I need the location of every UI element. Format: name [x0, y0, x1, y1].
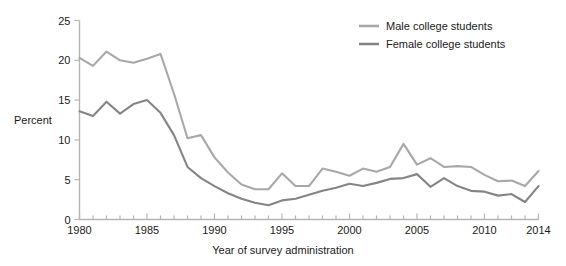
y-axis-title: Percent — [14, 114, 52, 126]
x-tick-label: 1985 — [135, 224, 159, 236]
x-axis-tick-labels: 19801985199019952000200520102014 — [67, 224, 550, 236]
y-tick-label: 10 — [58, 134, 70, 146]
y-axis-tick-labels: 0510152025 — [58, 15, 70, 226]
data-series-lines — [80, 52, 539, 206]
x-tick-label: 2005 — [405, 224, 429, 236]
y-tick-label: 20 — [58, 54, 70, 66]
line-chart-figure: 0510152025 19801985199019952000200520102… — [0, 0, 566, 266]
y-tick-label: 15 — [58, 94, 70, 106]
x-tick-label: 2010 — [472, 224, 496, 236]
legend-label: Male college students — [386, 20, 493, 32]
y-tick-label: 5 — [64, 174, 70, 186]
x-tick-label: 1990 — [202, 224, 226, 236]
chart-legend: Male college studentsFemale college stud… — [359, 20, 506, 50]
chart-plot-area: 0510152025 19801985199019952000200520102… — [0, 0, 566, 266]
x-tick-label: 1980 — [67, 224, 91, 236]
x-axis-ticks — [80, 214, 539, 220]
y-tick-label: 25 — [58, 15, 70, 27]
x-axis-title: Year of survey administration — [212, 244, 353, 256]
series-line-female — [80, 100, 539, 205]
series-line-male — [80, 52, 539, 190]
x-tick-label: 2014 — [526, 224, 550, 236]
legend-label: Female college students — [386, 38, 506, 50]
x-tick-label: 1995 — [270, 224, 294, 236]
x-tick-label: 2000 — [337, 224, 361, 236]
y-axis-ticks — [75, 21, 80, 220]
